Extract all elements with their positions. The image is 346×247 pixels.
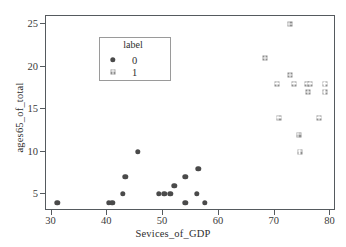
y-tick (40, 66, 45, 67)
data-point-class-0 (183, 174, 188, 179)
data-point-class-1 (275, 81, 280, 86)
data-point-class-1 (296, 132, 301, 137)
plot-frame: label 0 1 (45, 15, 335, 210)
x-tick-label: 80 (324, 215, 335, 226)
data-point-class-1 (322, 90, 327, 95)
legend-entry-0-label: 0 (132, 54, 137, 65)
legend-entry-1[interactable]: 1 (100, 65, 170, 78)
data-point-class-0 (106, 200, 111, 205)
plot-area (46, 16, 334, 209)
legend-entry-1-label: 1 (132, 66, 137, 77)
x-tick-label: 70 (268, 215, 279, 226)
legend: label 0 1 (99, 37, 171, 81)
data-point-class-0 (156, 191, 161, 196)
data-point-class-0 (54, 200, 59, 205)
data-point-class-1 (322, 81, 327, 86)
data-point-class-0 (168, 191, 173, 196)
data-point-class-1 (292, 81, 297, 86)
y-tick-label: 5 (16, 188, 38, 199)
data-point-class-0 (183, 200, 188, 205)
x-tick-label: 40 (101, 215, 112, 226)
y-tick (40, 108, 45, 109)
y-tick (40, 193, 45, 194)
data-point-class-1 (308, 81, 313, 86)
data-point-class-0 (172, 183, 177, 188)
x-tick-label: 60 (213, 215, 224, 226)
x-axis-label: Sevices_of_GDP (0, 228, 346, 239)
data-point-class-0 (120, 191, 125, 196)
data-point-class-1 (306, 90, 311, 95)
y-tick (40, 151, 45, 152)
x-tick-label: 50 (157, 215, 168, 226)
legend-title: label (100, 39, 166, 50)
x-tick-label: 30 (45, 215, 56, 226)
data-point-class-0 (162, 191, 167, 196)
y-axis-label: ages65_of_total (14, 53, 25, 183)
scatter-plot-figure: label 0 1 304050607080 510152025 Sevices… (0, 0, 346, 247)
data-point-class-1 (288, 73, 293, 78)
y-tick (40, 23, 45, 24)
legend-marker-circle-icon (110, 57, 115, 62)
legend-marker-square-x-icon (111, 69, 116, 74)
data-point-class-0 (122, 174, 127, 179)
data-point-class-0 (110, 200, 115, 205)
data-point-class-1 (317, 115, 322, 120)
y-tick-label: 25 (16, 18, 38, 29)
data-point-class-1 (263, 56, 268, 61)
data-point-class-0 (135, 149, 140, 154)
data-point-class-1 (287, 22, 292, 27)
data-point-class-1 (276, 115, 281, 120)
data-point-class-1 (297, 149, 302, 154)
data-point-class-1 (305, 81, 310, 86)
data-point-class-0 (196, 166, 201, 171)
data-point-class-0 (202, 200, 207, 205)
data-point-class-0 (194, 191, 199, 196)
